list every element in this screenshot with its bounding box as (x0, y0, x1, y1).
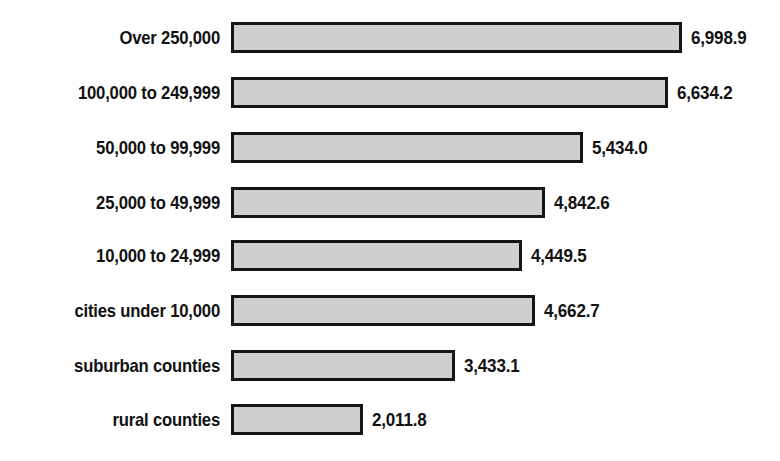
value-label: 4,662.7 (544, 295, 600, 326)
value-label: 4,842.6 (554, 187, 610, 218)
bar-track: 5,434.0 (231, 132, 780, 163)
category-label: cities under 10,000 (22, 295, 220, 326)
bar-row: 50,000 to 99,9995,434.0 (0, 132, 780, 163)
category-label: Over 250,000 (22, 22, 220, 53)
value-label: 5,434.0 (592, 132, 648, 163)
value-label: 3,433.1 (464, 350, 520, 381)
value-label: 6,634.2 (677, 77, 733, 108)
bar-row: rural counties2,011.8 (0, 404, 780, 435)
category-label: suburban counties (22, 350, 220, 381)
bar-row: suburban counties3,433.1 (0, 350, 780, 381)
bar (231, 404, 363, 435)
bar (231, 77, 668, 108)
bar-row: cities under 10,0004,662.7 (0, 295, 780, 326)
value-label: 2,011.8 (372, 404, 427, 435)
bar (231, 240, 522, 271)
bar (231, 187, 545, 218)
bar-track: 2,011.8 (231, 404, 780, 435)
bar-track: 4,662.7 (231, 295, 780, 326)
category-label: 25,000 to 49,999 (22, 187, 220, 218)
bar-row: 100,000 to 249,9996,634.2 (0, 77, 780, 108)
bar-track: 3,433.1 (231, 350, 780, 381)
bar (231, 295, 535, 326)
bar-row: Over 250,0006,998.9 (0, 22, 780, 53)
value-label: 4,449.5 (531, 240, 587, 271)
bar-track: 6,634.2 (231, 77, 780, 108)
value-label: 6,998.9 (691, 22, 747, 53)
bar-row: 10,000 to 24,9994,449.5 (0, 240, 780, 271)
category-label: 50,000 to 99,999 (22, 132, 220, 163)
bar-track: 6,998.9 (231, 22, 780, 53)
bar-track: 4,449.5 (231, 240, 780, 271)
bar-chart: Over 250,0006,998.9100,000 to 249,9996,6… (0, 0, 780, 461)
bar-row: 25,000 to 49,9994,842.6 (0, 187, 780, 218)
bar (231, 350, 455, 381)
category-label: rural counties (22, 404, 220, 435)
category-label: 100,000 to 249,999 (22, 77, 220, 108)
bar-track: 4,842.6 (231, 187, 780, 218)
category-label: 10,000 to 24,999 (22, 240, 220, 271)
bar (231, 22, 682, 53)
bar (231, 132, 583, 163)
